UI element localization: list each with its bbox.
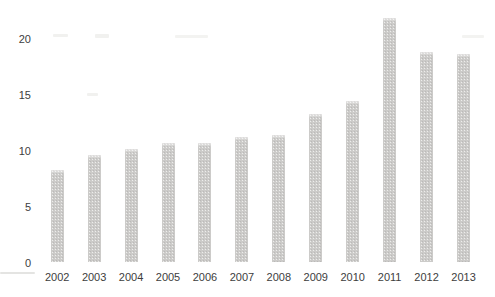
x-tick-label: 2008 (259, 271, 299, 283)
bar-2009 (309, 114, 322, 263)
bar-2013 (457, 54, 470, 262)
bar-2005 (162, 143, 175, 263)
y-tick-label: 5 (0, 201, 31, 213)
x-tick-label: 2012 (407, 271, 447, 283)
bar-2010 (346, 101, 359, 262)
bar-2004 (125, 149, 138, 262)
y-tick-label: 0 (0, 257, 31, 269)
scan-artifact (175, 35, 208, 38)
scan-artifact (87, 93, 98, 96)
y-tick-label: 15 (0, 89, 31, 101)
bar-chart: 05101520 2002200320042005200620072008200… (0, 0, 495, 297)
x-tick-label: 2011 (370, 271, 410, 283)
bar-2002 (51, 170, 64, 263)
bar-2003 (88, 155, 101, 263)
bar-2011 (383, 18, 396, 262)
scan-artifact (462, 35, 484, 38)
x-tick-label: 2005 (148, 271, 188, 283)
x-tick-label: 2006 (185, 271, 225, 283)
x-tick-label: 2003 (74, 271, 114, 283)
bar-2012 (420, 52, 433, 263)
x-tick-label: 2004 (111, 271, 151, 283)
scan-artifact (0, 272, 35, 274)
bar-2006 (198, 143, 211, 263)
x-tick-label: 2013 (444, 271, 484, 283)
x-tick-label: 2010 (333, 271, 373, 283)
y-tick-label: 20 (0, 33, 31, 45)
y-tick-label: 10 (0, 145, 31, 157)
x-tick-label: 2009 (296, 271, 336, 283)
bar-2007 (235, 137, 248, 262)
bar-2008 (272, 135, 285, 263)
x-tick-label: 2002 (37, 271, 77, 283)
x-tick-label: 2007 (222, 271, 262, 283)
scan-artifact (53, 34, 68, 37)
scan-artifact (95, 34, 109, 38)
